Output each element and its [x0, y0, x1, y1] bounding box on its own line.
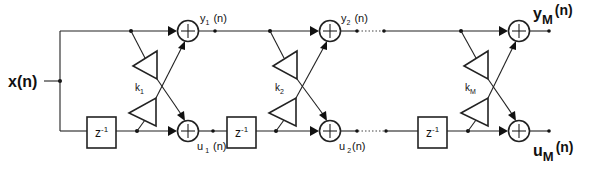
stage-2: z-1 k2 y2(n) u2(n)	[227, 12, 368, 154]
arrow-icon	[310, 26, 319, 36]
coefficient-k2: k2	[275, 82, 284, 95]
multiplier-triangle-bottom-1	[129, 98, 156, 126]
multiplier-triangle-top-M	[464, 51, 488, 79]
output-uM-label: uM(n)	[533, 139, 574, 164]
arrow-icon	[320, 41, 327, 50]
arrow-icon	[178, 41, 185, 50]
output-yM-label: yM(n)	[533, 2, 573, 27]
stage-M: z-1 kM yM(n) uM(n)	[384, 2, 574, 164]
coefficient-k1: k1	[135, 82, 144, 95]
arrow-icon	[319, 111, 327, 121]
arrow-icon	[310, 126, 319, 136]
output-u1-label: u1(n)	[197, 140, 226, 154]
output-u2-label: u2(n)	[339, 140, 365, 154]
arrow-icon	[499, 26, 508, 36]
multiplier-triangle-top-1	[133, 51, 157, 79]
arrow-icon	[168, 126, 177, 136]
arrow-icon	[509, 41, 516, 50]
arrow-icon	[177, 111, 185, 121]
arrow-icon	[168, 26, 177, 36]
arrow-icon	[499, 126, 508, 136]
lattice-filter-diagram: x(n) z-1 k1 y1(n)	[0, 0, 598, 173]
input-label: x(n)	[8, 73, 37, 90]
stage-1: z-1 k1 y1(n) u1(n)	[60, 12, 310, 154]
arrow-icon	[508, 111, 516, 121]
output-y2-label: y2(n)	[341, 12, 368, 26]
output-y1-label: y1(n)	[200, 12, 227, 26]
coefficient-kM: kM	[465, 82, 476, 95]
multiplier-triangle-top-2	[273, 51, 297, 79]
